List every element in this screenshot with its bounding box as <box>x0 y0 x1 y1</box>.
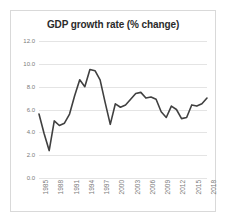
plot-area <box>39 41 207 178</box>
x-tick-label: 2012 <box>179 180 186 194</box>
x-tick-label: 2009 <box>164 180 171 194</box>
x-axis: 1985198819911994199720002003200620092012… <box>39 180 207 214</box>
y-tick-label: 0.0 <box>27 175 35 181</box>
y-axis: 0.02.04.06.08.010.012.0 <box>11 41 37 178</box>
gdp-growth-line-series <box>39 41 207 178</box>
x-tick-label: 2003 <box>134 180 141 194</box>
x-tick-label: 2006 <box>149 180 156 194</box>
x-tick-label: 1994 <box>88 180 95 194</box>
chart-frame: GDP growth rate (% change) 0.02.04.06.08… <box>10 10 216 212</box>
y-tick-label: 8.0 <box>27 84 35 90</box>
x-tick-label: 1991 <box>73 180 80 194</box>
chart-title: GDP growth rate (% change) <box>11 19 215 30</box>
gridline <box>39 178 207 179</box>
x-tick-label: 1997 <box>103 180 110 194</box>
x-tick-label: 2018 <box>210 180 217 194</box>
y-tick-label: 6.0 <box>27 107 35 113</box>
x-tick-label: 1988 <box>57 180 64 194</box>
x-tick-label: 1985 <box>42 180 49 194</box>
x-tick-label: 2015 <box>195 180 202 194</box>
y-tick-label: 2.0 <box>27 152 35 158</box>
y-tick-label: 4.0 <box>27 129 35 135</box>
y-tick-label: 10.0 <box>23 61 35 67</box>
x-tick-label: 2000 <box>118 180 125 194</box>
y-tick-label: 12.0 <box>23 38 35 44</box>
